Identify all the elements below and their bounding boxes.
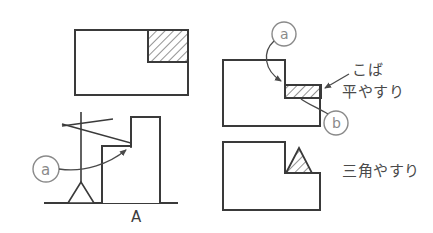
elevation-view-with-file [33,112,178,203]
technical-drawing-figure: こば 平やすり 三角やすり A a a b [0,0,433,233]
file-tool-crossbar [62,119,113,126]
label-koba: こば [352,62,383,79]
tri-file-block-outline [223,142,320,210]
callout-a-letter-right: a [280,26,289,42]
file-tool-blade [62,124,131,148]
label-sankaku-yasuri: 三角やすり [342,163,420,180]
drawing-canvas [0,0,433,233]
flat-file-hatched-rect [285,85,321,98]
label-hira-yasuri: 平やすり [342,84,404,101]
section-letter-A: A [131,208,141,226]
plan-view-hatched-square [148,30,188,62]
callout-a-letter-left: a [41,161,50,179]
triangular-file-hatched [286,148,312,173]
step-block-triangular-file [223,142,320,210]
file-tool-support-triangle [68,182,94,203]
callout-b-letter: b [332,115,341,131]
plan-view-notched-block [75,30,188,95]
